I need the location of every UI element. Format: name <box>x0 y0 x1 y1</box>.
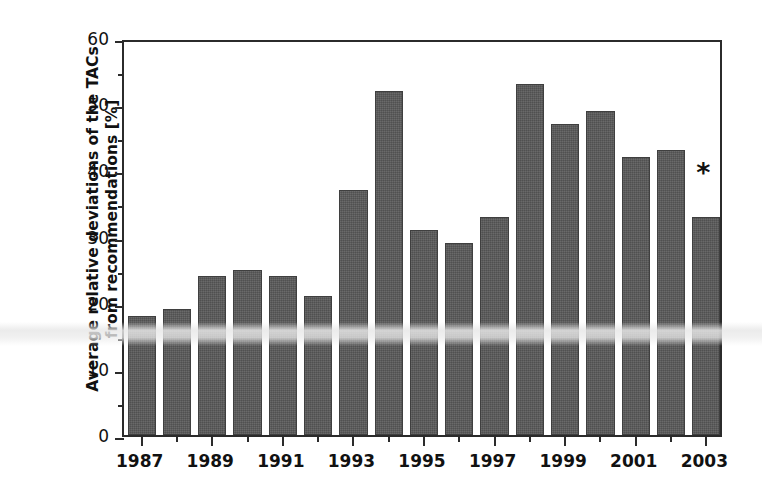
x-axis-tick-label: 1995 <box>382 453 462 470</box>
y-axis-tick-label: 10 <box>57 362 109 379</box>
y-axis-minor-tick <box>118 74 124 76</box>
x-axis-minor-tick <box>458 435 460 442</box>
bar <box>233 270 261 435</box>
y-axis-minor-tick <box>118 206 124 208</box>
y-axis-major-tick <box>115 41 124 43</box>
x-axis-minor-tick <box>317 435 319 442</box>
y-axis-tick-label: 40 <box>57 163 109 180</box>
x-axis-tick-label: 2003 <box>664 453 744 470</box>
y-axis-minor-tick <box>118 140 124 142</box>
x-axis-major-tick <box>211 435 213 446</box>
x-axis-major-tick <box>494 435 496 446</box>
x-axis-major-tick <box>141 435 143 446</box>
bar <box>516 84 544 435</box>
bar <box>269 276 297 435</box>
bar <box>551 124 579 435</box>
bar <box>622 157 650 435</box>
bar <box>692 217 720 435</box>
y-axis-major-tick <box>115 438 124 440</box>
y-axis-minor-tick <box>118 339 124 341</box>
y-axis-major-tick <box>115 372 124 374</box>
x-axis-minor-tick <box>529 435 531 442</box>
x-axis-tick-label: 2001 <box>594 453 674 470</box>
bar <box>480 217 508 435</box>
x-axis-major-tick <box>423 435 425 446</box>
x-axis-minor-tick <box>176 435 178 442</box>
y-axis-major-tick <box>115 306 124 308</box>
bar <box>586 111 614 435</box>
bars-layer <box>124 42 720 435</box>
x-axis-tick-label: 1999 <box>523 453 603 470</box>
y-axis-tick-label: 0 <box>57 428 109 445</box>
x-axis-minor-tick <box>599 435 601 442</box>
bar <box>128 316 156 435</box>
x-axis-tick-label: 1989 <box>170 453 250 470</box>
plot-area <box>122 40 722 437</box>
asterisk-annotation: * <box>696 159 710 186</box>
y-axis-minor-tick <box>118 273 124 275</box>
y-axis-tick-label: 50 <box>57 97 109 114</box>
y-axis-tick-label: 60 <box>57 31 109 48</box>
x-axis-tick-label: 1991 <box>241 453 321 470</box>
x-axis-minor-tick <box>670 435 672 442</box>
y-axis-major-tick <box>115 107 124 109</box>
x-axis-major-tick <box>635 435 637 446</box>
bar <box>445 243 473 435</box>
bar <box>410 230 438 435</box>
y-axis-minor-tick <box>118 405 124 407</box>
bar <box>339 190 367 435</box>
x-axis-major-tick <box>705 435 707 446</box>
bar <box>163 309 191 435</box>
x-axis-tick-label: 1993 <box>311 453 391 470</box>
x-axis-major-tick <box>352 435 354 446</box>
x-axis-minor-tick <box>388 435 390 442</box>
x-axis-major-tick <box>564 435 566 446</box>
y-axis-tick-label: 30 <box>57 230 109 247</box>
x-axis-major-tick <box>282 435 284 446</box>
x-axis-tick-label: 1987 <box>100 453 180 470</box>
y-axis-major-tick <box>115 240 124 242</box>
x-axis-minor-tick <box>247 435 249 442</box>
bar <box>657 150 685 435</box>
x-axis-tick-label: 1997 <box>453 453 533 470</box>
bar-chart: Average relative deviations of the TACs … <box>0 0 762 499</box>
bar <box>304 296 332 435</box>
y-axis-major-tick <box>115 173 124 175</box>
bar <box>375 91 403 435</box>
y-axis-tick-label: 20 <box>57 296 109 313</box>
bar <box>198 276 226 435</box>
